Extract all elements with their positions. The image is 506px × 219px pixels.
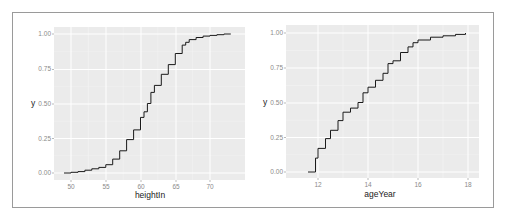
left-xtick-label: 50 (67, 183, 75, 190)
right-plot-background (286, 25, 479, 178)
left-x-axis: 50 55 60 65 70 (67, 183, 214, 190)
left-ytick-label: 1.00 (38, 30, 51, 37)
left-ytick-label: 0.75 (38, 65, 51, 72)
right-y-axis: 1.00 0.75 0.50 0.25 0.00 (270, 29, 283, 175)
left-xtick-label: 55 (102, 183, 110, 190)
right-ytick-label: 0.75 (270, 64, 283, 71)
right-ytick-label: 1.00 (270, 29, 283, 36)
charts-canvas: 1.00 0.75 0.50 0.25 0.00 50 55 60 65 70 … (0, 0, 506, 219)
right-xtick-label: 14 (364, 181, 372, 188)
left-chart: 1.00 0.75 0.50 0.25 0.00 50 55 60 65 70 … (31, 27, 245, 200)
right-xtick-label: 16 (414, 181, 422, 188)
left-xtick-label: 65 (172, 183, 180, 190)
right-y-axis-title: y (263, 97, 268, 107)
left-xtick-label: 60 (137, 183, 145, 190)
left-ytick-label: 0.50 (38, 100, 51, 107)
left-ytick-label: 0.25 (38, 135, 51, 142)
right-xtick-label: 18 (464, 181, 472, 188)
left-ytick-label: 0.00 (38, 169, 51, 176)
right-chart: 1.00 0.75 0.50 0.25 0.00 12 14 16 18 age… (263, 25, 479, 199)
right-x-axis-title: ageYear (364, 189, 396, 199)
left-y-axis: 1.00 0.75 0.50 0.25 0.00 (38, 30, 51, 176)
right-x-axis: 12 14 16 18 (314, 181, 472, 188)
right-xtick-label: 12 (314, 181, 322, 188)
left-y-axis-title: y (31, 98, 36, 108)
left-x-axis-title: heightIn (135, 190, 166, 200)
left-xtick-label: 70 (206, 183, 214, 190)
right-ytick-label: 0.50 (270, 99, 283, 106)
right-ytick-label: 0.00 (270, 168, 283, 175)
right-ytick-label: 0.25 (270, 134, 283, 141)
